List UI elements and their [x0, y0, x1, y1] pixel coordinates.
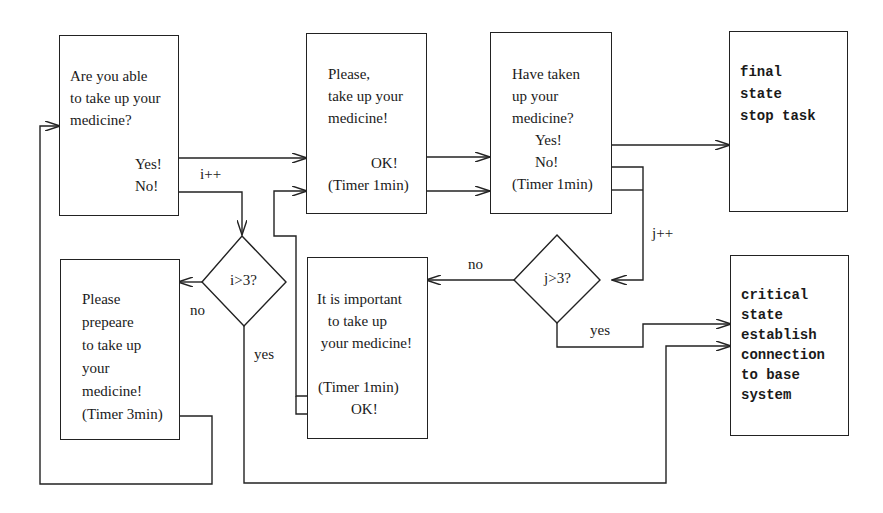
node-important-line-2: to take up	[324, 310, 387, 332]
decision-j-label: j>3?	[544, 270, 571, 287]
edge-label-i-yes: yes	[254, 346, 274, 363]
node-prepare-line-4: your	[82, 357, 110, 379]
node-please-take-line-2: take up your	[328, 85, 403, 107]
node-have-taken-line-1: Have taken	[512, 63, 580, 85]
node-have-taken-no: No!	[535, 151, 558, 173]
node-have-taken-line-3: medicine?	[512, 107, 574, 129]
node-ask-able-line-2: to take up your	[70, 87, 160, 109]
edge-label-j-increment: j++	[652, 225, 673, 242]
node-critical-state-line-6: system	[741, 385, 791, 405]
node-have-taken-timer: (Timer 1min)	[512, 173, 593, 195]
node-important-ok: OK!	[351, 398, 378, 420]
node-prepare-line-5: medicine!	[82, 380, 142, 402]
node-prepare-line-3: to take up	[82, 334, 141, 356]
node-ask-able-no: No!	[135, 175, 158, 197]
edge-label-i-no: no	[190, 302, 205, 319]
node-prepare-line-1: Please	[82, 288, 120, 310]
edge-label-i-increment: i++	[200, 166, 221, 183]
node-please-take-timer: (Timer 1min)	[328, 174, 409, 196]
node-final-state-line-1: final	[740, 62, 782, 82]
node-prepare-line-6: (Timer 3min)	[82, 403, 163, 425]
node-ask-able-line-3: medicine?	[70, 109, 132, 131]
edge-label-j-no: no	[468, 256, 483, 273]
node-critical-state-line-5: to base	[741, 365, 800, 385]
node-important-timer: (Timer 1min)	[318, 376, 399, 398]
decision-i-label: i>3?	[230, 272, 257, 289]
node-critical-state-line-2: state	[741, 305, 783, 325]
node-final-state-line-2: state	[740, 84, 782, 104]
node-ask-able-line-1: Are you able	[70, 65, 147, 87]
node-important-line-3: your medicine!	[317, 332, 412, 354]
edge-label-j-yes: yes	[590, 322, 610, 339]
node-prepare-line-2: prepeare	[82, 311, 134, 333]
node-please-take-line-3: medicine!	[328, 107, 388, 129]
node-please-take-ok: OK!	[371, 152, 398, 174]
node-please-take-line-1: Please,	[328, 63, 370, 85]
node-ask-able-yes: Yes!	[135, 153, 162, 175]
node-final-state-line-3: stop task	[740, 106, 816, 126]
node-critical-state-line-4: connection	[741, 345, 825, 365]
node-critical-state-line-3: establish	[741, 325, 817, 345]
node-important-line-1: It is important	[317, 288, 402, 310]
node-have-taken-yes: Yes!	[535, 129, 562, 151]
node-have-taken-line-2: up your	[512, 85, 558, 107]
node-critical-state-line-1: critical	[741, 285, 808, 305]
